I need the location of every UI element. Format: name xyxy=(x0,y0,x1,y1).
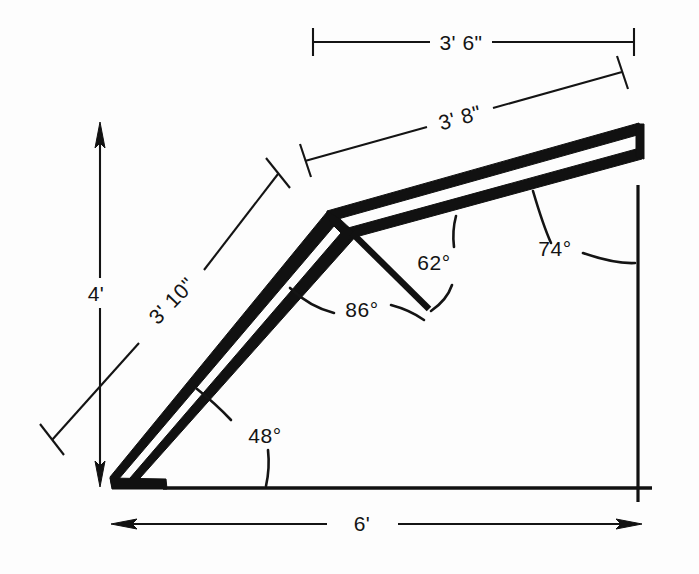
angle-48-ground-tick xyxy=(266,450,269,486)
ladder-leg xyxy=(110,212,357,489)
dimension-6ft: 6' xyxy=(111,512,642,535)
ladder-leg-foot xyxy=(110,478,167,489)
angle-86-group: 86° xyxy=(290,288,424,321)
angle-86-leader-right xyxy=(391,305,424,320)
dim-38-line-right xyxy=(493,72,622,108)
ramp-end-cap xyxy=(636,124,644,159)
angle-48-label: 48° xyxy=(248,424,281,447)
angle-62-group: 62° xyxy=(417,216,456,311)
dim-310-line-lower xyxy=(52,343,139,440)
dimension-3ft-6in: 3' 6" xyxy=(313,28,634,56)
angle-74-group: 74° xyxy=(533,191,635,263)
angle-62-label: 62° xyxy=(417,251,450,274)
angle-74-label: 74° xyxy=(538,237,571,260)
angle-48-group: 48° xyxy=(197,389,282,486)
ladder-leg-beam xyxy=(110,212,340,487)
dimension-3ft-8in: 3' 8" xyxy=(300,56,628,177)
angle-62-leader-up xyxy=(453,216,456,247)
angle-74-leader-up xyxy=(533,191,551,243)
ladder-ramp-diagram: 3' 6" 3' 8" 3' 10" xyxy=(0,0,699,574)
dim-6ft-label: 6' xyxy=(354,512,371,535)
dim-310-label: 3' 10" xyxy=(144,273,199,329)
angle-62-arc xyxy=(431,285,452,311)
angle-86-label: 86° xyxy=(345,298,378,321)
angle-74-arc xyxy=(583,253,635,263)
technical-drawing-canvas: 3' 6" 3' 8" 3' 10" xyxy=(0,0,699,574)
dim-4ft-label: 4' xyxy=(88,282,105,305)
dim-310-line-upper xyxy=(204,174,278,270)
dimension-4ft: 4' xyxy=(88,122,105,487)
dim-36-label: 3' 6" xyxy=(439,31,482,54)
dim-38-label: 3' 8" xyxy=(436,101,484,135)
dim-38-line-left xyxy=(305,127,427,161)
ladder-leg-beam-inner xyxy=(130,226,357,487)
